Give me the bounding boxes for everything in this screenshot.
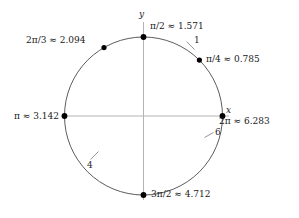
point-pi-over-2 bbox=[141, 34, 147, 40]
point-two-pi-over-3 bbox=[101, 45, 106, 50]
label-two-pi: 2π ≈ 6.283 bbox=[219, 117, 270, 126]
label-three-pi-over-2: 3π/2 ≈ 4.712 bbox=[151, 190, 210, 199]
label-pi-over-2: π/2 ≈ 1.571 bbox=[150, 22, 204, 31]
tick-mark-4 bbox=[91, 152, 99, 160]
label-pi: π ≈ 3.142 bbox=[14, 112, 59, 121]
point-three-pi-over-2 bbox=[141, 192, 147, 198]
diagram-canvas bbox=[0, 0, 299, 218]
point-pi bbox=[62, 113, 68, 119]
tick-label-1: 1 bbox=[194, 36, 200, 45]
label-two-pi-over-3: 2π/3 ≈ 2.094 bbox=[26, 36, 85, 45]
tick-mark-6 bbox=[205, 133, 214, 138]
label-pi-over-4: π/4 ≈ 0.785 bbox=[206, 55, 260, 64]
point-pi-over-4 bbox=[197, 58, 202, 63]
y-axis-label: y bbox=[139, 10, 144, 19]
unit-circle-diagram: y x π/2 ≈ 1.571 2π/3 ≈ 2.094 π/4 ≈ 0.785… bbox=[0, 0, 299, 218]
tick-label-4: 4 bbox=[87, 161, 93, 170]
x-axis-label: x bbox=[226, 106, 231, 115]
tick-label-6: 6 bbox=[215, 128, 221, 137]
